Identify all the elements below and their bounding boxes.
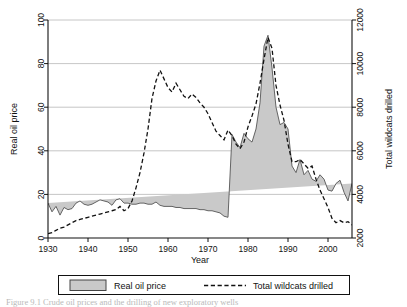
y-axis-left-title: Real oil price [9,103,19,155]
x-tick-label: 2000 [319,244,338,254]
right-tick-label: 8000 [355,97,365,116]
x-tick-label: 1980 [239,244,258,254]
x-tick-label: 1950 [119,244,138,254]
figure-container: 020406080100 20004000600080001000012000 … [0,0,407,307]
figure-caption: Figure 9.1 Crude oil prices and the dril… [6,297,238,307]
y-axis-right-title: Total wildcats drilled [384,89,394,169]
left-tick-label: 20 [36,189,46,199]
left-tick-label: 40 [36,146,46,156]
left-tick-label: 80 [36,59,46,69]
right-tick-label: 4000 [355,185,365,204]
left-tick-label: 60 [36,102,46,112]
x-axis-title: Year [191,255,209,265]
left-tick-label: 100 [36,13,46,27]
right-tick-label: 12000 [355,8,365,32]
right-tick-label: 6000 [355,141,365,160]
chart-legend: Real oil price Total wildcats drilled [59,276,350,295]
x-tick-label: 1990 [279,244,298,254]
right-tick-label: 2000 [355,228,365,247]
x-tick-label: 1960 [159,244,178,254]
x-tick-label: 1940 [79,244,98,254]
oil-price-wildcats-chart: 020406080100 20004000600080001000012000 … [0,0,407,307]
x-tick-label: 1930 [39,244,58,254]
legend-swatch-real-oil-price [70,280,106,291]
right-tick-label: 10000 [355,52,365,76]
x-tick-label: 1970 [199,244,218,254]
left-tick-label: 0 [36,235,46,240]
legend-label-total-wildcats-drilled: Total wildcats drilled [253,281,333,291]
legend-label-real-oil-price: Real oil price [114,281,166,291]
